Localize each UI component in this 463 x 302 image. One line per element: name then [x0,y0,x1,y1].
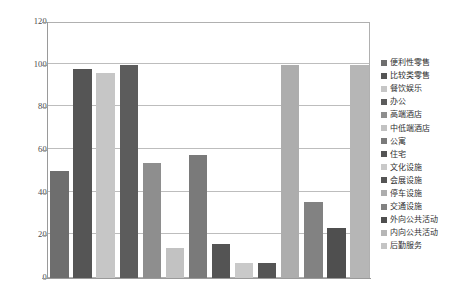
legend-swatch-icon [381,230,387,236]
legend-swatch-icon [381,217,387,223]
legend-swatch-icon [381,138,387,144]
legend-item[interactable]: 后勤服务 [381,239,463,252]
legend-item[interactable]: 外向公共活动 [381,213,463,226]
bar [50,171,68,278]
bar [350,65,368,278]
y-axis-tick-label: 60 [7,145,47,154]
legend-item[interactable]: 便利性零售 [381,56,463,69]
x-axis-line [47,278,371,279]
legend-item-label: 会展设施 [390,176,422,185]
bar [327,228,345,278]
legend-item[interactable]: 办公 [381,95,463,108]
legend-swatch-icon [381,86,387,92]
legend-item-label: 中低端酒店 [390,124,430,133]
y-axis-tick-label: 80 [7,102,47,111]
legend-item-label: 交通设施 [390,202,422,211]
bar [73,69,91,278]
legend-item[interactable]: 高端酒店 [381,108,463,121]
y-axis-tick-label: 20 [7,230,47,239]
legend-item[interactable]: 中低端酒店 [381,121,463,134]
legend-swatch-icon [381,60,387,66]
legend-swatch-icon [381,164,387,170]
y-axis-tick-label: 120 [7,17,47,26]
bar [281,65,299,278]
legend-item[interactable]: 比较类零售 [381,69,463,82]
legend-item-label: 比较类零售 [390,71,430,80]
legend-swatch-icon [381,112,387,118]
legend: 便利性零售比较类零售餐饮娱乐办公高端酒店中低端酒店公寓住宅文化设施会展设施停车设… [381,56,463,252]
legend-item-label: 便利性零售 [390,58,430,67]
bar-chart: 020406080100120 便利性零售比较类零售餐饮娱乐办公高端酒店中低端酒… [0,0,463,302]
legend-swatch-icon [381,99,387,105]
legend-swatch-icon [381,204,387,210]
bar [120,65,138,278]
legend-swatch-icon [381,125,387,131]
legend-item[interactable]: 交通设施 [381,200,463,213]
legend-swatch-icon [381,151,387,157]
legend-item[interactable]: 住宅 [381,148,463,161]
legend-item-label: 住宅 [390,150,406,159]
legend-item[interactable]: 内向公共活动 [381,226,463,239]
legend-item-label: 后勤服务 [390,241,422,250]
legend-item-label: 停车设施 [390,189,422,198]
bar [212,244,230,278]
y-axis-tick-label: 40 [7,188,47,197]
legend-swatch-icon [381,190,387,196]
y-axis: 020406080100120 [0,0,47,302]
legend-item-label: 办公 [390,97,406,106]
legend-item-label: 文化设施 [390,163,422,172]
legend-item[interactable]: 停车设施 [381,187,463,200]
legend-item[interactable]: 公寓 [381,135,463,148]
bars-container [48,23,369,278]
legend-swatch-icon [381,243,387,249]
legend-item-label: 高端酒店 [390,110,422,119]
legend-swatch-icon [381,177,387,183]
y-axis-tick-label: 0 [7,273,47,282]
bar [166,248,184,278]
bar [143,163,161,278]
legend-item-label: 公寓 [390,137,406,146]
bar [189,155,207,278]
y-axis-tick-label: 100 [7,60,47,69]
legend-item[interactable]: 文化设施 [381,161,463,174]
bar [304,202,322,278]
bar [235,263,253,278]
legend-item[interactable]: 会展设施 [381,174,463,187]
legend-item[interactable]: 餐饮娱乐 [381,82,463,95]
legend-item-label: 内向公共活动 [390,228,438,237]
legend-swatch-icon [381,73,387,79]
legend-item-label: 外向公共活动 [390,215,438,224]
bar [96,73,114,278]
bar [258,263,276,278]
legend-item-label: 餐饮娱乐 [390,84,422,93]
